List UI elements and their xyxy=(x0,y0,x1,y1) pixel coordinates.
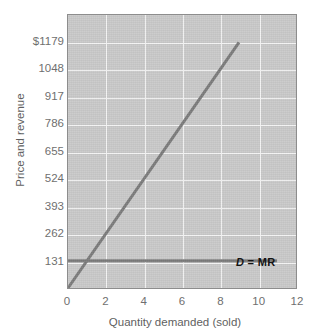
y-tick-label-4: 655 xyxy=(45,146,64,158)
y-tick-label-7: 1048 xyxy=(38,63,64,75)
x-tick-label-1: 2 xyxy=(93,296,117,308)
y-axis-title: Price and revenue xyxy=(14,60,26,220)
series-line-tr xyxy=(68,42,239,288)
y-tick-label-0: 131 xyxy=(45,256,64,268)
x-axis-title: Quantity demanded (sold) xyxy=(0,316,316,328)
plot-area: TR D = MR xyxy=(67,14,297,289)
x-tick-label-6: 12 xyxy=(285,296,309,308)
y-tick-label-8: $1179 xyxy=(33,36,64,48)
y-tick-label-6: 917 xyxy=(45,91,64,103)
series-label-d-mr: D = MR xyxy=(236,257,275,268)
series-label-eq-mr: = MR xyxy=(244,256,275,268)
x-tick-label-0: 0 xyxy=(55,296,79,308)
plot-inner xyxy=(68,15,296,288)
x-axis-tick-labels: 024681012 xyxy=(0,296,316,312)
chart-figure: TR D = MR 1312623935246557869171048$1179… xyxy=(0,0,316,336)
y-tick-label-5: 786 xyxy=(45,118,64,130)
y-tick-label-1: 262 xyxy=(45,228,64,240)
y-tick-label-2: 393 xyxy=(45,201,64,213)
x-tick-label-4: 8 xyxy=(208,296,232,308)
x-tick-label-5: 10 xyxy=(247,296,271,308)
y-tick-label-3: 524 xyxy=(45,173,64,185)
x-tick-label-3: 6 xyxy=(170,296,194,308)
x-tick-label-2: 4 xyxy=(132,296,156,308)
series-layer xyxy=(68,15,296,288)
series-label-d: D xyxy=(236,256,244,268)
